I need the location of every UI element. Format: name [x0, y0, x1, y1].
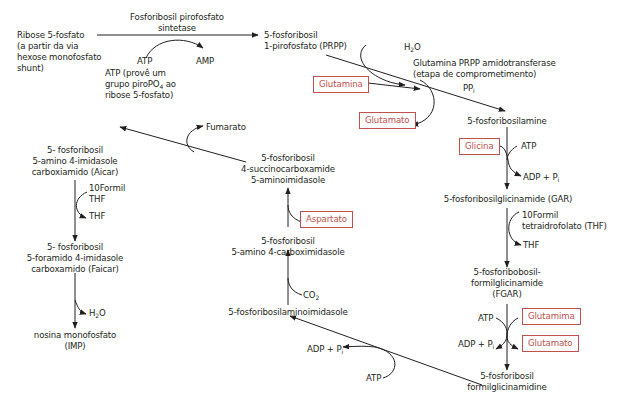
atp-note-line2: grupo piroPO4 ao [105, 79, 176, 90]
cofactor-atp-gar: ATP [521, 141, 536, 152]
cofactor-amp: AMP [196, 56, 214, 67]
co2-text: CO [303, 290, 315, 300]
ppi-text: PP [463, 83, 473, 93]
node-air: 5-fosforibosilaminoimidasole [228, 307, 347, 318]
node-fgam-line1: 5-fosforibosil [467, 371, 546, 382]
cofactor-h2o-2: H2O [89, 308, 106, 319]
node-faicar-line3: carboxamido (Faicar) [27, 264, 123, 275]
enzyme-prpp-synthetase-line2: sintetase [130, 23, 224, 34]
cofactor-adp-gar: ADP + Pi [523, 172, 559, 183]
box-glutamato-2: Glutamato [522, 335, 579, 352]
cofactor-thf-out: THF [523, 240, 539, 251]
node-fosforibosilamine: 5-fosforibosilamine [467, 116, 546, 127]
node-faicar-line1: 5- fosforibosil [27, 242, 123, 253]
node-imp: nosina monofosfato (IMP) [34, 330, 116, 352]
atp-note-line1: ATP (provê um [105, 68, 176, 79]
atp-note-text2: ao [163, 79, 176, 89]
node-cair-line1: 5-fosforibosil [231, 236, 344, 247]
enzyme-prpp-synthetase: Fosforibosil pirofosfato sintetase [130, 12, 224, 34]
node-prpp: 5-fosforibosil 1-pirofosfato (PRPP) [264, 30, 347, 52]
cofactor-thf-out-2: THF [89, 211, 105, 222]
enzyme-prpp-synthetase-line1: Fosforibosil pirofosfato [130, 12, 224, 23]
cofactor-atp-air: ATP [366, 373, 381, 384]
cofactor-adp-air: ADP + Pi [307, 344, 343, 355]
node-ribose-line1: Ribose 5-fosfato [17, 30, 101, 41]
box-glutamato-1: Glutamato [359, 112, 416, 129]
adp-fgam-sub: i [492, 343, 494, 350]
atp-note-text: grupo piroPO [105, 79, 159, 89]
cofactor-h2o-1: H2O [404, 42, 421, 53]
node-faicar-line2: 5-foramido 4-imidasole [27, 253, 123, 264]
node-aicar-line2: 5-amino 4-imidasole [32, 156, 118, 167]
node-fgar-line3: (FGAR) [471, 289, 543, 300]
box-aspartato: Aspartato [300, 211, 353, 228]
cofactor-atp-1: ATP [137, 56, 152, 67]
node-fgar-line2: formilglicinamide [471, 278, 543, 289]
node-fgar-line1: 5-fosforibobosil- [471, 267, 543, 278]
cofactor-adp-fgam: ADP + Pi [458, 339, 494, 350]
adp-air-sub: i [341, 348, 343, 355]
enzyme-amidotransferase-line2: (etapa de comprometimento) [413, 69, 556, 80]
box-glutamina-1: Glutamina [313, 76, 369, 93]
node-cair: 5-fosforibosil 5-amino 4-carboximidasole [231, 236, 344, 258]
cofactor-formyl-thf: 10Formil tetraidrofolato (THF) [522, 210, 607, 232]
node-saicar-line3: 5-aminoimidasole [241, 175, 335, 186]
cofactor-ppi: PPi [463, 83, 475, 94]
adp-gar-sub: i [557, 176, 559, 183]
formyl-thf2-line1: 10Formil [89, 183, 125, 194]
node-aicar-line1: 5- fosforibosil [32, 145, 118, 156]
node-aicar-line3: carboxiamido (Aicar) [32, 167, 118, 178]
formyl-thf2-line2: THF [89, 194, 125, 205]
cofactor-fumarato: Fumarato [206, 122, 246, 133]
enzyme-amidotransferase: Glutamina PRPP amidotransferase (etapa d… [413, 58, 556, 80]
node-saicar: 5-fosforibosil 4-succinocarboxamide 5-am… [241, 153, 335, 186]
h2o2-o: O [99, 308, 106, 318]
ppi-sub: i [473, 87, 475, 94]
adp-fgam-text: ADP + P [458, 339, 492, 349]
cofactor-formyl-thf-2: 10Formil THF [89, 183, 125, 205]
node-gar: 5-fosforibosilglicinamide (GAR) [444, 194, 572, 205]
node-fgar: 5-fosforibobosil- formilglicinamide (FGA… [471, 267, 543, 300]
node-aicar: 5- fosforibosil 5-amino 4-imidasole carb… [32, 145, 118, 178]
node-cair-line2: 5-amino 4-carboximidasole [231, 247, 344, 258]
cofactor-co2: CO2 [303, 290, 319, 301]
adp-gar-text: ADP + P [523, 172, 557, 182]
node-faicar: 5- fosforibosil 5-foramido 4-imidasole c… [27, 242, 123, 275]
atp-note: ATP (provê um grupo piroPO4 ao ribose 5-… [105, 68, 176, 101]
purine-synthesis-diagram: Ribose 5-fosfato (a partir da via hexose… [0, 0, 617, 405]
node-prpp-line2: 1-pirofosfato (PRPP) [264, 41, 347, 52]
node-fgam: 5-fosforibosil formilglicinamidine [467, 371, 546, 393]
node-saicar-line1: 5-fosforibosil [241, 153, 335, 164]
atp-note-line3: ribose 5-fosfato) [105, 90, 176, 101]
adp-air-text: ADP + P [307, 344, 341, 354]
node-ribose-line3: hexose monofosfato [17, 52, 101, 63]
node-prpp-line1: 5-fosforibosil [264, 30, 347, 41]
cofactor-atp-fgam: ATP [478, 313, 493, 324]
node-ribose-line4: shunt) [17, 63, 101, 74]
enzyme-amidotransferase-line1: Glutamina PRPP amidotransferase [413, 58, 556, 69]
node-ribose-line2: (a partir da via [17, 41, 101, 52]
box-glicina: Glicina [459, 138, 500, 155]
box-glutamina-2: Glutamima [522, 308, 581, 325]
node-imp-line1: nosina monofosfato [34, 330, 116, 341]
h2o-o: O [414, 42, 421, 52]
co2-sub: 2 [315, 294, 319, 301]
node-fgam-line2: formilglicinamidine [467, 382, 546, 393]
node-saicar-line2: 4-succinocarboxamide [241, 164, 335, 175]
formyl-thf-line1: 10Formil [522, 210, 607, 221]
formyl-thf-line2: tetraidrofolato (THF) [522, 221, 607, 232]
node-imp-line2: (IMP) [34, 341, 116, 352]
node-ribose-5-fosfato: Ribose 5-fosfato (a partir da via hexose… [17, 30, 101, 74]
